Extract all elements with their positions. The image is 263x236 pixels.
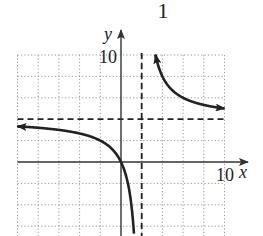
right-branch xyxy=(155,55,224,109)
header-fragment: 1 xyxy=(158,0,169,23)
y-axis-label: y xyxy=(102,24,112,44)
right-branch-start-arrow xyxy=(155,55,157,62)
left-branch xyxy=(18,126,134,233)
y-tick-label: 10 xyxy=(99,47,117,67)
x-axis-label: x xyxy=(238,162,247,182)
rational-function-graph: 1 y 10 10 x xyxy=(0,0,263,236)
x-tick-label: 10 xyxy=(216,165,234,185)
